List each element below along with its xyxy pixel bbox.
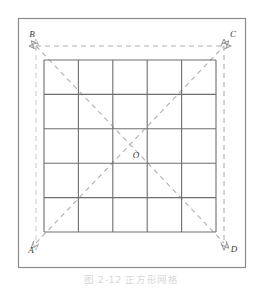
figure-caption: 图 2-12 正方形网格 <box>0 271 262 289</box>
vertex-label-B: B <box>29 29 35 39</box>
vertex-label-D: D <box>230 244 238 254</box>
vertex-label-C: C <box>230 29 237 39</box>
vertex-label-O: O <box>133 150 140 160</box>
vertex-label-A: A <box>27 245 34 255</box>
geometry-figure-canvas: BCADO <box>0 0 262 289</box>
figure-root: BCADO 图 2-12 正方形网格 <box>0 0 262 289</box>
